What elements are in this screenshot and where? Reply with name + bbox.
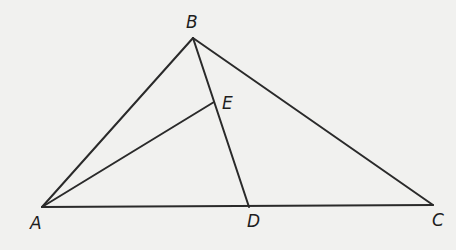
label-point-b: B [186,12,198,32]
segments [42,38,433,207]
point-labels: A B C D E [29,12,444,233]
label-point-d: D [247,211,260,231]
segment-ab [42,38,193,207]
geometry-diagram: A B C D E [0,0,456,250]
triangle-figure: A B C D E [0,0,456,250]
segment-bd [193,38,249,207]
segment-bc [193,38,433,205]
segment-ac [42,205,433,207]
segment-ae [42,102,214,207]
label-point-e: E [222,93,233,113]
label-point-c: C [432,210,444,230]
label-point-a: A [29,213,42,233]
